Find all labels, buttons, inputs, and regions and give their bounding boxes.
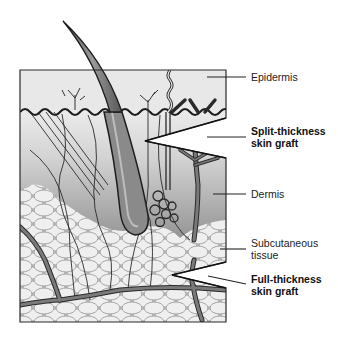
label-full-thickness-line1: Full-thickness [251,273,322,285]
label-split-thickness-line1: Split-thickness [251,125,326,137]
label-subcutaneous-line2: tissue [251,249,278,261]
leader-full [208,276,246,284]
label-full-thickness-line2: skin graft [251,285,298,297]
label-split-thickness-line2: skin graft [251,137,298,149]
label-dermis: Dermis [251,188,284,200]
tissue-block [20,70,230,322]
label-epidermis: Epidermis [251,71,298,83]
label-subcutaneous-line1: Subcutaneous [251,237,318,249]
